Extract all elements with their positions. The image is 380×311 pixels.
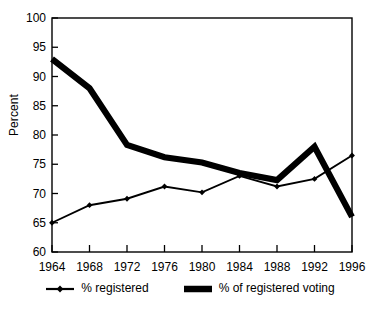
legend-label-registered: % registered xyxy=(81,282,148,295)
chart-figure: Percent 6065707580859095100 196419681972… xyxy=(0,0,380,311)
legend-item-registered-voting: % of registered voting xyxy=(183,282,335,295)
axis-ticks xyxy=(52,18,352,252)
axis-frame xyxy=(52,18,352,252)
data-series-layer xyxy=(49,59,355,226)
legend-swatch-thick-line-icon xyxy=(183,283,213,295)
legend-item-registered: % registered xyxy=(45,282,148,295)
legend-swatch-thin-line-icon xyxy=(45,283,75,295)
chart-legend: % registered % of registered voting xyxy=(0,282,380,295)
plot-area xyxy=(0,0,380,311)
legend-label-registered-voting: % of registered voting xyxy=(219,282,335,295)
